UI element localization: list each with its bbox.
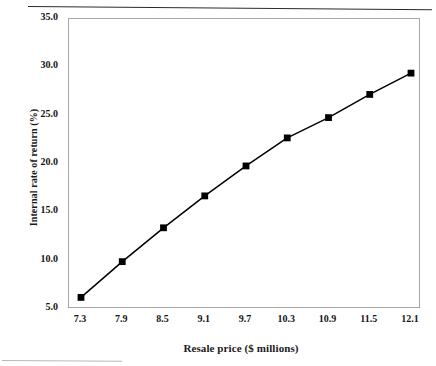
data-point-marker — [284, 135, 291, 142]
y-axis-tick-label: 30.0 — [14, 59, 58, 70]
data-series-line — [81, 73, 411, 297]
data-point-marker — [243, 163, 250, 170]
page-rule-top-decoration — [28, 6, 432, 10]
line-chart-svg — [69, 19, 421, 309]
y-axis-tick-label: 10.0 — [14, 253, 58, 264]
x-axis-tick-label: 7.9 — [101, 313, 141, 324]
x-axis-title: Resale price ($ millions) — [60, 342, 422, 354]
data-point-marker — [160, 224, 167, 231]
page-rule-bottom-decoration — [2, 360, 122, 362]
y-axis-title: Internal rate of return (%) — [28, 73, 39, 263]
plot-area — [68, 18, 420, 308]
x-axis-tick-label: 7.3 — [60, 313, 100, 324]
data-point-marker — [366, 91, 373, 98]
y-axis-tick-label: 20.0 — [14, 156, 58, 167]
y-axis-tick-label: 15.0 — [14, 204, 58, 215]
x-axis-tick-label: 10.3 — [266, 313, 306, 324]
data-point-marker — [78, 294, 85, 301]
y-axis-tick-label: 5.0 — [14, 301, 58, 312]
x-axis-tick-label: 11.5 — [349, 313, 389, 324]
x-axis-tick-label: 10.9 — [308, 313, 348, 324]
x-axis-tick-label: 12.1 — [390, 313, 430, 324]
data-point-marker — [325, 114, 332, 121]
data-point-marker — [119, 258, 126, 265]
figure-container: Internal rate of return (%) 5.010.015.02… — [0, 0, 436, 366]
y-axis-tick-label: 35.0 — [14, 11, 58, 22]
x-axis-tick-label: 8.5 — [143, 313, 183, 324]
y-axis-tick-label: 25.0 — [14, 108, 58, 119]
data-point-marker-group — [78, 70, 415, 301]
x-axis-tick-label: 9.7 — [225, 313, 265, 324]
data-point-marker — [408, 70, 415, 77]
x-axis-tick-label: 9.1 — [184, 313, 224, 324]
data-point-marker — [201, 193, 208, 200]
